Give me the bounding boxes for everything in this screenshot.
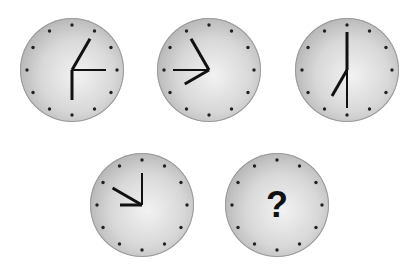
question-mark: ? (225, 153, 329, 257)
clock-hand (191, 39, 209, 70)
clock-dial-icon (295, 18, 399, 122)
clock-dial-icon (20, 18, 124, 122)
clock-dial-icon (90, 153, 194, 257)
clock-dial-icon (157, 18, 261, 122)
clock-hand (332, 70, 347, 96)
clock-hand (113, 188, 142, 205)
clock-face-4 (90, 153, 194, 257)
clock-face-3 (295, 18, 399, 122)
clock-hand (185, 70, 209, 84)
clock-face-5: ? (225, 153, 329, 257)
clock-face-1 (20, 18, 124, 122)
clock-hand (72, 39, 90, 70)
clock-face-2 (157, 18, 261, 122)
